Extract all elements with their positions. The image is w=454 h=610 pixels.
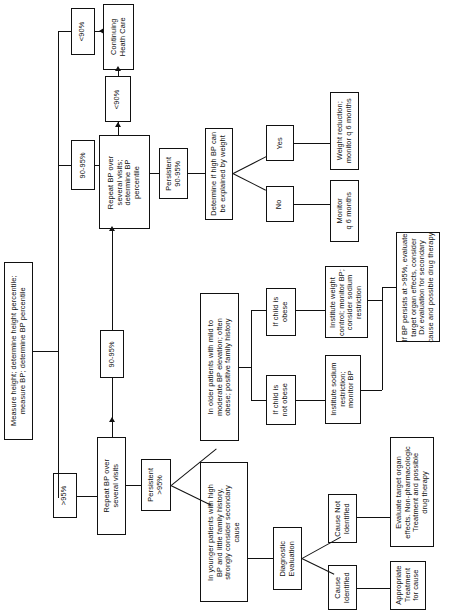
edge-persists-bus-vertical xyxy=(382,287,383,390)
edge-repeat-bp-to-persistent-90-95 xyxy=(150,173,159,174)
edge-chain-top-stub xyxy=(112,229,113,241)
node-no: No xyxy=(266,186,294,222)
node-repeat-bp-percentile: Repeat BP over several visits; determine… xyxy=(99,135,150,229)
node-continuing-health-care-label: Continuing Heath Care xyxy=(110,18,127,57)
node-if-bp-persists: If BP persists at >95%, evaluate target … xyxy=(396,232,440,342)
edge-trunk-to-90-95 xyxy=(58,165,71,166)
node-yes: Yes xyxy=(266,125,294,161)
node-persistent-90-95: Persistent 90-95% xyxy=(159,148,188,199)
edge-cause-identified-to-treatment xyxy=(357,588,390,589)
node-lt90-top: <90% xyxy=(71,8,95,55)
edge-cause-not-identified-to-evaluate xyxy=(357,517,390,518)
node-yes-label: Yes xyxy=(276,137,285,149)
edge-90-95-to-repeat-bp xyxy=(95,165,99,166)
node-institute-weight-control: Institute weight control; monitor BP; co… xyxy=(325,266,368,338)
arrowhead-repeat-bp-to-lt90-mid xyxy=(115,122,121,127)
edge-younger-to-diagnostic xyxy=(248,558,273,559)
node-if-child-obese-label: If child is obese xyxy=(272,297,289,327)
node-determine-weight-label: Determine if high BP can be explained by… xyxy=(210,132,227,216)
node-persistent-90-95-label: Persistent 90-95% xyxy=(165,157,182,191)
node-if-child-not-obese: If child is not obese xyxy=(266,375,296,425)
edge-bus-to-if-bp-persists xyxy=(382,287,396,288)
node-weight-reduction: Weight reduction; monitor q 6 months xyxy=(330,92,359,170)
edge-measure-to-trunk xyxy=(33,351,58,352)
node-if-child-obese: If child is obese xyxy=(266,288,296,336)
node-measure-height: Measure height; determine height percent… xyxy=(4,262,33,440)
node-cause-identified: Cause Identified xyxy=(328,565,357,610)
node-90-95-percent: 90-95% xyxy=(71,140,95,190)
node-90-95-percent-label: 90-95% xyxy=(79,152,88,178)
node-repeat-bp-visits-label: Repeat BP over several visits xyxy=(103,459,120,512)
node-older-patients-label: In older patients with mild to moderate … xyxy=(206,318,232,416)
edge-repeat-bp-visits-to-persistent xyxy=(126,485,141,486)
flowchart-canvas: Measure height; determine height percent… xyxy=(0,0,454,610)
node-evaluate-target-organ-label: Evaluate target organ effects. Non-pharm… xyxy=(395,446,430,538)
node-institute-sodium: Institute sodium restriction; monitor BP xyxy=(325,355,361,424)
edge-obese-to-institute-weight xyxy=(296,310,325,311)
edge-persistent-90-95-to-determine xyxy=(188,173,205,174)
node-if-child-not-obese-label: If child is not obese xyxy=(272,383,289,416)
node-younger-patients: In younger patients with high BP and lit… xyxy=(200,462,248,602)
node-90-95-percent-lower-label: 90-95% xyxy=(108,341,117,367)
edge-yes-to-weight-reduction xyxy=(294,143,330,144)
node-monitor-q6-months: Monitor q 6 months xyxy=(330,180,359,242)
edge-determine-to-no xyxy=(233,173,266,191)
node-determine-weight: Determine if high BP can be explained by… xyxy=(205,128,233,220)
node-cause-not-identified: Cause Not Identified xyxy=(328,494,357,543)
edge-trunk-up-lt90 xyxy=(58,31,59,89)
node-diagnostic-evaluation-label: Diagnostic Evaluation xyxy=(279,541,296,577)
edge-institute-weight-to-bus xyxy=(368,300,382,301)
node-continuing-health-care: Continuing Heath Care xyxy=(103,4,134,70)
node-measure-height-label: Measure height; determine height percent… xyxy=(10,276,27,427)
edge-determine-to-yes xyxy=(233,156,266,174)
edge-bus-to-if-child-not-obese xyxy=(251,400,266,401)
node-diagnostic-evaluation: Diagnostic Evaluation xyxy=(273,527,302,590)
edge-gt95-to-repeat-bp-visits xyxy=(77,496,97,497)
node-if-bp-persists-label: If BP persists at >95%, evaluate target … xyxy=(401,232,436,342)
node-lt90-top-label: <90% xyxy=(79,22,88,42)
node-cause-not-identified-label: Cause Not Identified xyxy=(334,501,351,537)
edge-bus-to-if-child-obese xyxy=(251,310,266,311)
arrowhead-lt90-mid-to-continuing xyxy=(115,66,121,71)
node-monitor-q6-months-label: Monitor q 6 months xyxy=(336,192,353,230)
node-lt90-middle: <90% xyxy=(105,76,131,122)
node-weight-reduction-label: Weight reduction; monitor q 6 months xyxy=(336,98,353,163)
node-institute-sodium-label: Institute sodium restriction; monitor BP xyxy=(330,363,356,416)
node-gt95-percent: >95% xyxy=(53,473,77,518)
node-90-95-percent-lower: 90-95% xyxy=(100,330,124,378)
edge-older-to-bus xyxy=(239,367,251,368)
node-appropriate-treatment: Appropriate Treatment for cause xyxy=(390,561,426,610)
node-institute-weight-control-label: Institute weight control; monitor BP; co… xyxy=(329,269,364,336)
node-repeat-bp-visits: Repeat BP over several visits xyxy=(97,437,126,535)
edge-trunk-vertical xyxy=(58,88,59,498)
node-persistent-gt95-label: Persistent >95% xyxy=(147,468,164,502)
node-cause-identified-label: Cause Identified xyxy=(334,572,351,603)
edge-not-obese-to-institute-sodium xyxy=(296,400,325,401)
node-older-patients: In older patients with mild to moderate … xyxy=(200,293,239,441)
node-appropriate-treatment-label: Appropriate Treatment for cause xyxy=(395,566,421,605)
node-evaluate-target-organ: Evaluate target organ effects. Non-pharm… xyxy=(390,437,434,547)
edge-trunk-to-lt90-top xyxy=(58,31,71,32)
edge-no-to-monitor xyxy=(294,204,330,205)
node-no-label: No xyxy=(276,199,285,209)
node-gt95-percent-label: >95% xyxy=(61,486,70,506)
node-lt90-middle-label: <90% xyxy=(114,89,123,109)
edge-older-bus-vertical xyxy=(251,310,252,400)
node-younger-patients-label: In younger patients with high BP and lit… xyxy=(207,484,242,581)
node-repeat-bp-percentile-label: Repeat BP over several visits; determine… xyxy=(107,155,142,208)
edge-repeat-bp-visits-up xyxy=(112,421,113,437)
arrowhead-lt90-top-to-continuing xyxy=(99,28,104,34)
node-persistent-gt95: Persistent >95% xyxy=(141,459,171,511)
edge-institute-sodium-to-bus xyxy=(361,390,382,391)
edge-diagnostic-to-cause-not-identified xyxy=(302,537,341,559)
